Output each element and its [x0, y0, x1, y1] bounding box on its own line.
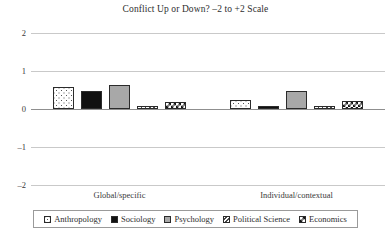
legend-item-psychology[interactable]: Psychology — [164, 214, 214, 224]
legend-swatch-psychology-icon — [164, 216, 171, 223]
plot-area: 210–1–2 — [31, 33, 385, 185]
y-axis-tick-label: –2 — [18, 180, 27, 190]
legend-swatch-sociology-icon — [111, 216, 118, 223]
y-axis-tick-label: 1 — [22, 66, 26, 76]
bars-layer — [31, 33, 385, 185]
y-axis-tick-label: –1 — [18, 142, 27, 152]
x-axis-category-label: Individual/contextual — [260, 190, 333, 200]
bar-anthropology-individual-contextual — [230, 100, 251, 109]
legend-item-political-science[interactable]: Political Science — [223, 214, 290, 224]
bar-sociology-global-specific — [81, 91, 102, 109]
x-axis-category-label: Global/specific — [94, 190, 146, 200]
legend-label: Political Science — [233, 214, 290, 224]
legend-swatch-political-science-icon — [223, 216, 230, 223]
chart-figure: Conflict Up or Down? –2 to +2 Scale 210–… — [0, 0, 391, 239]
legend-item-sociology[interactable]: Sociology — [111, 214, 155, 224]
chart-legend: AnthropologySociologyPsychologyPolitical… — [33, 210, 358, 228]
y-axis-tick-label: 0 — [22, 104, 26, 114]
legend-label: Sociology — [121, 214, 155, 224]
bar-economics-individual-contextual — [342, 101, 363, 109]
bar-anthropology-global-specific — [53, 87, 74, 109]
bar-psychology-individual-contextual — [286, 91, 307, 109]
bar-political-science-global-specific — [137, 106, 158, 109]
legend-label: Psychology — [174, 214, 214, 224]
bar-political-science-individual-contextual — [314, 106, 335, 109]
legend-swatch-anthropology-icon — [44, 216, 51, 223]
y-axis-tick-label: 2 — [22, 28, 26, 38]
chart-title: Conflict Up or Down? –2 to +2 Scale — [0, 4, 391, 14]
legend-label: Economics — [309, 214, 347, 224]
gridline — [31, 185, 385, 186]
bar-sociology-individual-contextual — [258, 106, 279, 109]
legend-item-economics[interactable]: Economics — [299, 214, 347, 224]
bar-economics-global-specific — [165, 102, 186, 109]
bar-psychology-global-specific — [109, 85, 130, 109]
legend-item-anthropology[interactable]: Anthropology — [44, 214, 102, 224]
legend-swatch-economics-icon — [299, 216, 306, 223]
legend-label: Anthropology — [54, 214, 102, 224]
